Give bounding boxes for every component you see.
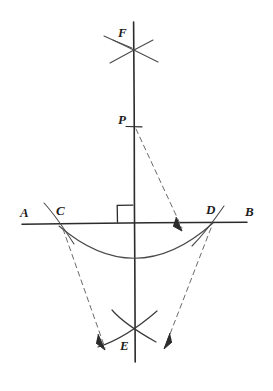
vertical-line-fe bbox=[134, 22, 136, 362]
label-point-d: D bbox=[206, 203, 215, 216]
geometric-construction-diagram: F P A C D B E bbox=[0, 0, 273, 391]
label-point-e: E bbox=[120, 339, 129, 352]
right-angle-marker-icon bbox=[117, 205, 133, 223]
dashed-ray-p-to-d bbox=[136, 129, 182, 228]
upper-arc-tick-icon bbox=[113, 40, 132, 48]
lower-arc-left-icon bbox=[112, 310, 156, 342]
arc-through-c-and-d bbox=[59, 223, 213, 258]
dashed-ray-d-to-e-arrowhead-icon bbox=[164, 333, 172, 349]
upper-arc-right-icon bbox=[110, 40, 153, 63]
label-point-f: F bbox=[118, 26, 127, 39]
construction-drawing-canvas bbox=[0, 0, 273, 391]
upper-arc-left-icon bbox=[104, 36, 158, 62]
label-point-c: C bbox=[56, 204, 65, 217]
label-point-a: A bbox=[20, 206, 29, 219]
label-point-p: P bbox=[118, 113, 126, 126]
dashed-ray-d-to-e bbox=[165, 228, 211, 347]
label-point-b: B bbox=[245, 205, 254, 218]
dashed-ray-c-to-e-arrowhead-icon bbox=[96, 334, 105, 350]
dashed-ray-c-to-e bbox=[63, 229, 105, 348]
